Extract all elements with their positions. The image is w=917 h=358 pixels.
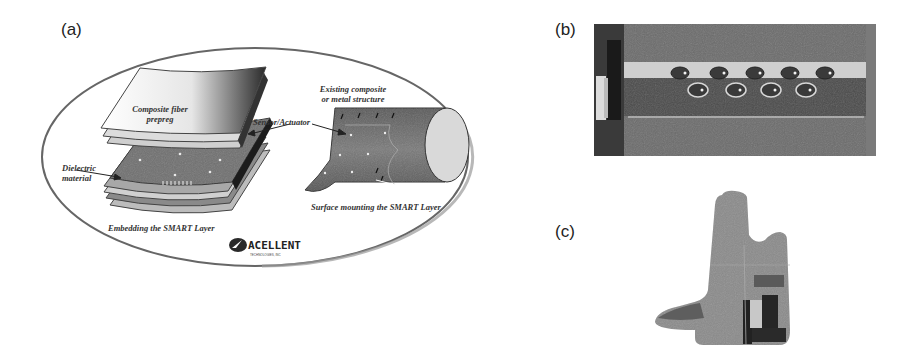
panel-b-photo — [594, 24, 876, 156]
label-prepreg-2: prepreg — [146, 114, 175, 124]
label-embedding: Embedding the SMART Layer — [107, 223, 215, 233]
logo-text: ACELLENT — [248, 239, 301, 252]
logo-subtitle: TECHNOLOGIES, INC — [250, 253, 282, 257]
panel-a-schematic: Composite fiber prepreg Sensor/Actuator … — [0, 0, 917, 358]
label-existing-2: or metal structure — [322, 94, 385, 104]
panel-c-photo — [655, 191, 790, 345]
label-prepreg-1: Composite fiber — [132, 104, 188, 114]
label-dielectric-1: Dielectric — [61, 163, 96, 173]
label-existing-1: Existing composite — [319, 84, 387, 94]
label-sensor-actuator: Sensor/Actuator — [253, 117, 311, 127]
label-surface-mounting: Surface mounting the SMART Layer — [311, 202, 442, 212]
label-dielectric-2: material — [62, 173, 92, 183]
